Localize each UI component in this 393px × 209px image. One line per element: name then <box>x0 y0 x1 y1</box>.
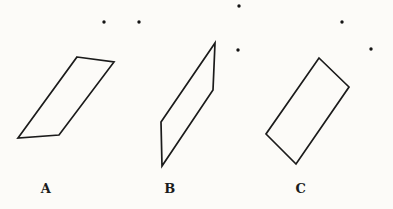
dot <box>340 20 343 23</box>
geometry-figure: A B C <box>0 0 393 209</box>
dot <box>236 48 239 51</box>
shape-a-outline <box>18 57 114 138</box>
dot <box>369 47 372 50</box>
shape-label-a: A <box>41 182 52 195</box>
shape-label-c: C <box>296 182 307 195</box>
shape-b-outline <box>161 43 215 166</box>
dot <box>137 20 140 23</box>
dot <box>102 20 105 23</box>
shape-c-outline <box>266 58 349 164</box>
shape-label-b: B <box>164 182 176 195</box>
figure-svg <box>0 0 393 209</box>
dot <box>237 4 240 7</box>
